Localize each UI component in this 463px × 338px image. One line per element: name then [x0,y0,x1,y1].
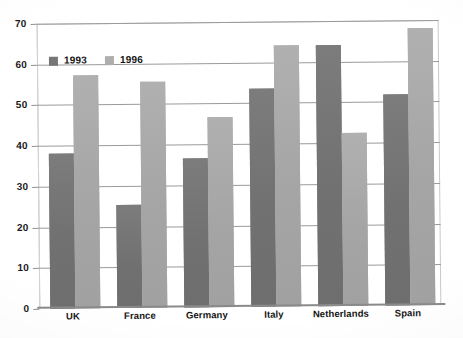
legend-label-1993: 1993 [64,55,87,65]
chart-canvas: 010203040506070 UKFranceGermanyItalyNeth… [0,0,463,338]
legend-swatch-1993-icon [49,56,58,65]
y-tick-label-30: 30 [0,182,28,192]
chart-legend: 1993 1996 [49,55,143,66]
bar-chart-figure: 010203040506070 UKFranceGermanyItalyNeth… [0,0,463,338]
y-tick-label-70: 70 [0,19,27,29]
bar-france-1996 [140,82,167,308]
y-tick-label-40: 40 [0,141,28,151]
x-label-uk: UK [39,311,106,321]
legend-label-1996: 1996 [120,55,143,65]
y-tick-mark-30 [32,187,38,188]
bar-uk-1993 [48,154,74,309]
x-axis-category-labels: UKFranceGermanyItalyNetherlandsSpain [0,0,461,2]
x-label-germany: Germany [173,310,240,320]
y-tick-mark-10 [33,268,39,269]
x-label-france: France [106,311,173,321]
bar-france-1993 [116,205,142,308]
x-label-italy: Italy [240,309,307,319]
legend-swatch-1996-icon [105,56,114,65]
y-axis-ticks [0,0,461,2]
y-tick-mark-40 [32,146,38,147]
y-tick-mark-20 [33,227,39,228]
legend-item-1993: 1993 [49,55,87,65]
bar-germany-1996 [207,117,234,307]
y-tick-label-20: 20 [1,223,29,233]
bar-netherlands-1993 [315,45,343,306]
gridline-70 [37,20,439,25]
bar-spain-1996 [407,28,435,305]
y-tick-mark-70 [31,24,37,25]
y-tick-mark-60 [31,65,37,66]
y-axis-tick-labels: 010203040506070 [0,0,461,2]
y-tick-label-60: 60 [0,60,27,70]
bar-spain-1993 [383,94,410,305]
bar-italy-1996 [273,46,301,307]
x-label-netherlands: Netherlands [307,309,374,319]
y-tick-label-0: 0 [1,304,29,314]
y-tick-label-50: 50 [0,100,27,110]
bar-uk-1996 [73,75,100,308]
bar-netherlands-1996 [341,132,368,306]
bar-germany-1993 [182,159,208,308]
y-tick-mark-50 [31,105,37,106]
bar-italy-1993 [249,89,276,307]
y-tick-mark-0 [33,309,39,310]
y-tick-label-10: 10 [1,263,29,273]
x-label-spain: Spain [374,308,441,318]
legend-item-1996: 1996 [105,55,143,65]
